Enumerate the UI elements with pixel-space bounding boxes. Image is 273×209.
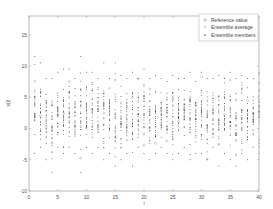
- legend-item-average: Ensemble average: [211, 24, 253, 30]
- x-tick-label: 5: [56, 194, 59, 200]
- scatter-chart: 0510152025303540 -10-5051015 i x(i) Refe…: [0, 0, 273, 209]
- legend-average-marker-icon: *: [204, 25, 206, 31]
- y-tick-label: -5: [23, 157, 28, 163]
- y-tick-label: -10: [20, 188, 27, 194]
- x-tick-label: 25: [170, 194, 176, 200]
- x-tick-label: 10: [84, 194, 90, 200]
- x-tick-label: 35: [227, 194, 233, 200]
- y-axis-ticks: -10-5051015: [20, 32, 259, 194]
- x-tick-label: 30: [199, 194, 205, 200]
- x-axis-label: i: [143, 200, 144, 206]
- legend-member-marker-icon: [204, 34, 205, 35]
- legend-item-members: Ensemble members: [211, 32, 256, 38]
- x-tick-label: 0: [28, 194, 31, 200]
- y-tick-label: 0: [24, 125, 27, 131]
- plot-points: [34, 56, 260, 172]
- x-tick-label: 40: [256, 194, 262, 200]
- y-tick-label: 15: [21, 32, 27, 38]
- legend-item-reference: Reference value: [211, 17, 248, 23]
- y-axis-label: x(i): [5, 99, 11, 106]
- y-tick-label: 5: [24, 94, 27, 100]
- legend: Reference value * Ensemble average Ensem…: [199, 14, 258, 41]
- x-axis-ticks: 0510152025303540: [28, 16, 262, 200]
- x-tick-label: 15: [112, 194, 118, 200]
- y-tick-label: 10: [21, 63, 27, 69]
